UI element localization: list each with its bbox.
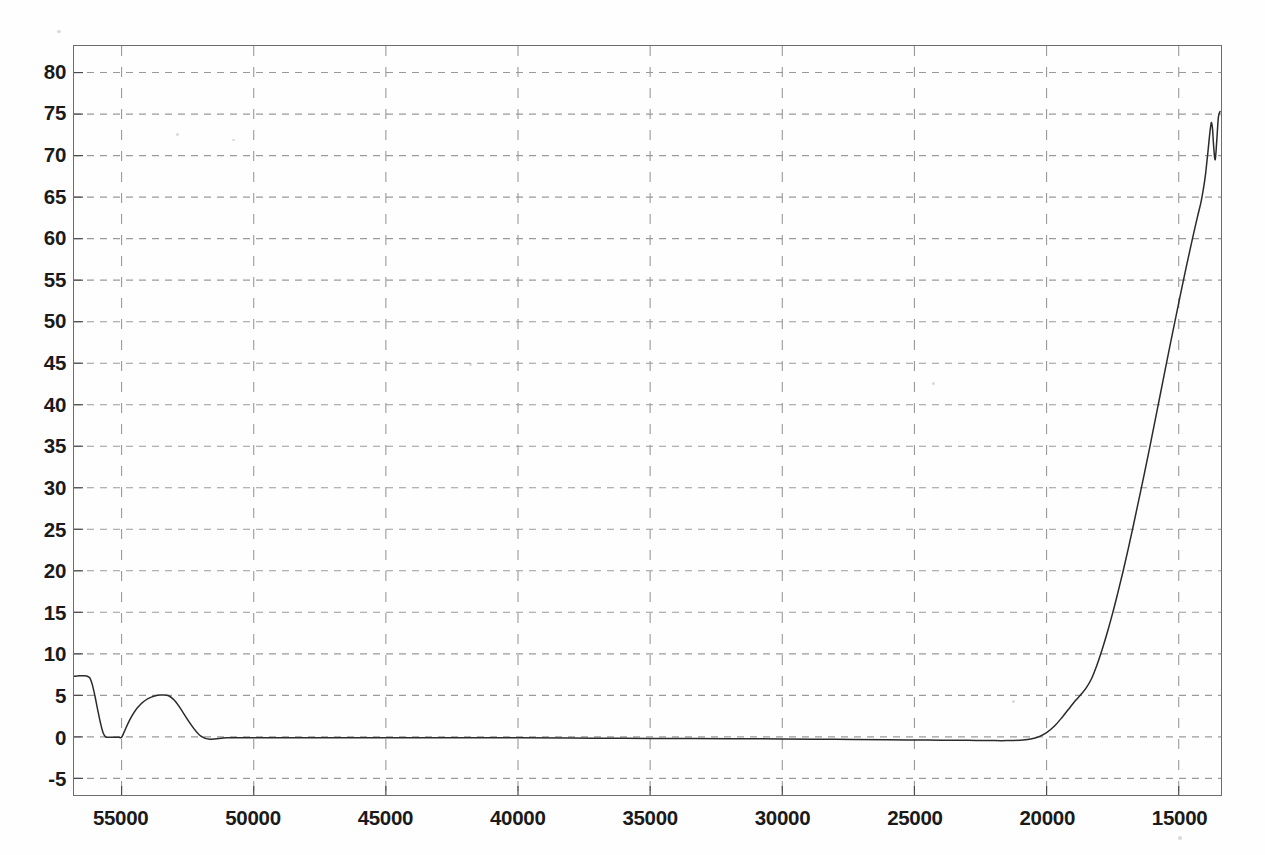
x-tick-label: 20000	[1020, 806, 1076, 830]
y-tick-label: 35	[44, 434, 66, 458]
y-tick-label: 50	[44, 309, 66, 333]
x-tick-label: 45000	[358, 806, 414, 830]
x-tick-label: 25000	[887, 806, 943, 830]
y-tick-label: 40	[44, 393, 66, 417]
x-tick-label: 55000	[93, 806, 149, 830]
y-tick-label: 55	[44, 268, 66, 292]
y-tick-label: 80	[44, 60, 66, 84]
y-tick-label: 45	[44, 351, 66, 375]
y-tick-label: 30	[44, 476, 66, 500]
x-tick-label: 35000	[622, 806, 678, 830]
plot-area	[73, 45, 1222, 796]
x-tick-label: 50000	[225, 806, 281, 830]
y-tick-label: 5	[55, 684, 66, 708]
y-tick-label: 70	[44, 143, 66, 167]
x-tick-label: 40000	[490, 806, 546, 830]
scan-speck	[1178, 836, 1182, 840]
y-tick-label: -5	[48, 767, 66, 791]
data-curve-layer	[74, 46, 1221, 795]
x-tick-label: 15000	[1152, 806, 1208, 830]
y-tick-label: 10	[44, 642, 66, 666]
y-tick-label: 75	[44, 101, 66, 125]
data-series-spectrum	[74, 112, 1220, 741]
chart-container: -505101520253035404550556065707580 55000…	[0, 0, 1265, 855]
y-tick-label: 25	[44, 518, 66, 542]
y-tick-label: 0	[55, 726, 66, 750]
x-tick-label: 30000	[755, 806, 811, 830]
y-tick-label: 65	[44, 185, 66, 209]
y-tick-label: 60	[44, 226, 66, 250]
y-tick-label: 15	[44, 601, 66, 625]
scan-speck	[57, 30, 61, 33]
y-tick-label: 20	[44, 559, 66, 583]
